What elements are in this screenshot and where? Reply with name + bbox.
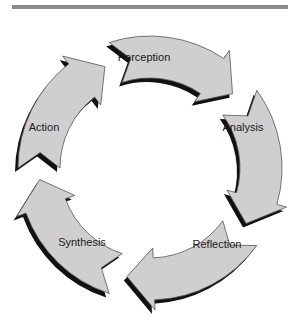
cycle-arrow-action: [18, 56, 105, 168]
step-label-synthesis: Synthesis: [58, 236, 106, 248]
cycle-arrows: [17, 36, 287, 310]
step-label-action: Action: [29, 121, 60, 133]
step-label-perception: Perception: [118, 51, 171, 63]
cycle-arrow-perception: [109, 36, 232, 102]
cycle-diagram: Perception Analysis Reflection Synthesis…: [0, 0, 303, 326]
step-label-analysis: Analysis: [223, 121, 264, 133]
step-label-reflection: Reflection: [193, 238, 242, 250]
cycle-arrow-reflection: [127, 221, 257, 310]
